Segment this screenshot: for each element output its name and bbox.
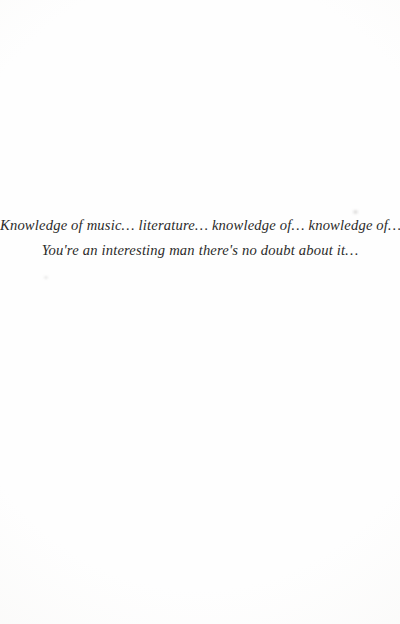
- paper-tone-overlay: [0, 0, 400, 624]
- scanned-page: Knowledge of music… literature… knowledg…: [0, 0, 400, 624]
- scan-artifact-speck-secondary: [44, 276, 48, 279]
- epigraph-quote: Knowledge of music… literature… knowledg…: [0, 213, 400, 263]
- quote-line-1: Knowledge of music… literature… knowledg…: [0, 213, 400, 238]
- quote-line-2: You're an interesting man there's no dou…: [0, 238, 400, 263]
